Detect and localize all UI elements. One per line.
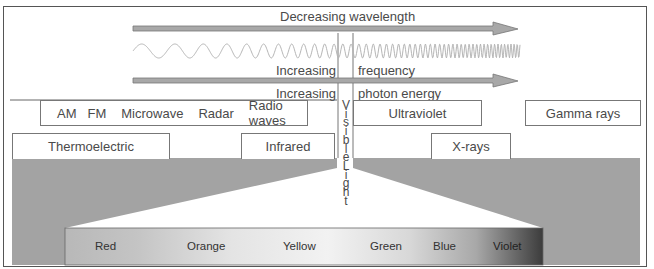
color-violet: Violet xyxy=(493,240,522,252)
band-am: AM xyxy=(57,106,77,121)
gamma-rays-box: Gamma rays xyxy=(525,100,641,126)
band-microwave: Microwave xyxy=(121,106,183,121)
color-orange: Orange xyxy=(187,240,225,252)
band-radio-waves: Radio waves xyxy=(249,98,292,128)
color-blue: Blue xyxy=(433,240,456,252)
wave-graphic xyxy=(133,44,520,58)
energy-label-right: photon energy xyxy=(358,87,441,101)
ultraviolet-label: Ultraviolet xyxy=(389,106,447,121)
xrays-label: X-rays xyxy=(452,139,490,154)
thermoelectric-label: Thermoelectric xyxy=(48,139,134,154)
color-green: Green xyxy=(370,240,402,252)
visible-light-label: V i s i b l e L i g h t xyxy=(339,101,353,205)
color-yellow: Yellow xyxy=(283,240,316,252)
band-fm: FM xyxy=(88,106,107,121)
infrared-box: Infrared xyxy=(241,133,335,159)
gamma-rays-label: Gamma rays xyxy=(546,106,620,121)
frequency-label-left: Increasing xyxy=(276,64,336,78)
visible-spectrum-labels: Red Orange Yellow Green Blue Violet xyxy=(65,240,543,256)
visible-letter: t xyxy=(339,197,353,206)
ultraviolet-box: Ultraviolet xyxy=(353,100,482,126)
wavelength-label: Decreasing wavelength xyxy=(280,10,415,24)
frequency-label-right: frequency xyxy=(358,64,415,78)
xrays-box: X-rays xyxy=(431,133,511,159)
band-radar: Radar xyxy=(198,106,233,121)
infrared-label: Infrared xyxy=(266,139,311,154)
thermoelectric-box: Thermoelectric xyxy=(12,133,170,159)
radio-band-box: AM FM Microwave Radar Radio waves xyxy=(40,100,308,126)
color-red: Red xyxy=(95,240,116,252)
